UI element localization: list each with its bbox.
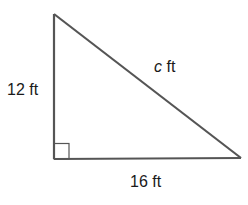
triangle-figure	[0, 0, 248, 205]
vertical-leg-label: 12 ft	[7, 82, 38, 98]
hypotenuse	[54, 14, 241, 158]
horizontal-leg-label: 16 ft	[130, 174, 161, 190]
triangle-diagram: 12 ft 16 ft c ft	[0, 0, 248, 205]
horizontal-leg	[54, 158, 241, 159]
hypotenuse-label: c ft	[154, 59, 175, 75]
hypotenuse-variable: c	[154, 58, 162, 75]
hypotenuse-unit: ft	[162, 58, 175, 75]
right-angle-marker	[54, 144, 69, 160]
